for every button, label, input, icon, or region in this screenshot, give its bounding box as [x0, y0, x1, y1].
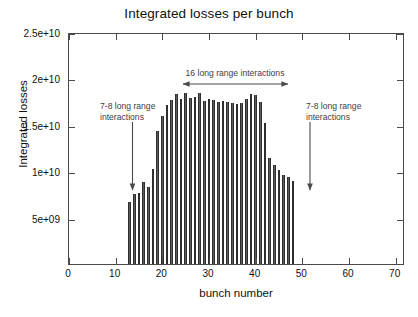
- x-axis-tick-label: 20: [156, 268, 167, 279]
- bar: [138, 193, 141, 264]
- x-axis-tick: [116, 34, 117, 40]
- bar: [180, 99, 183, 264]
- bar: [264, 123, 267, 264]
- bar: [268, 158, 271, 264]
- x-axis-tick: [209, 258, 210, 264]
- x-axis-tick: [302, 258, 303, 264]
- x-axis-tick-labels: 010203040506070: [68, 267, 404, 287]
- y-axis-tick: [397, 173, 403, 174]
- x-axis-tick-label: 10: [109, 268, 120, 279]
- y-axis-tick-label: 5e+09: [32, 213, 60, 224]
- y-axis-tick: [397, 80, 403, 81]
- bar: [287, 177, 290, 264]
- y-axis-tick: [397, 127, 403, 128]
- x-axis-title: bunch number: [68, 287, 404, 299]
- bar: [189, 98, 192, 264]
- x-axis-tick-label: 0: [65, 268, 71, 279]
- bar: [198, 93, 201, 264]
- y-axis-tick-label: 2e+10: [32, 74, 60, 85]
- x-axis-tick: [396, 34, 397, 40]
- bar: [212, 100, 215, 264]
- bar: [236, 104, 239, 264]
- x-axis-tick: [256, 34, 257, 40]
- bar: [170, 100, 173, 264]
- x-axis-tick: [396, 258, 397, 264]
- y-axis-tick-labels: 5e+091e+101.5e+102e+102.5e+10: [0, 33, 68, 265]
- bar: [231, 103, 234, 264]
- bar: [184, 93, 187, 264]
- y-axis-tick: [397, 34, 403, 35]
- x-axis-tick-label: 30: [202, 268, 213, 279]
- y-axis-tick-label: 1.5e+10: [24, 120, 60, 131]
- chart-title: Integrated losses per bunch: [0, 6, 418, 21]
- bar: [292, 181, 295, 264]
- bar: [240, 103, 243, 264]
- chart-figure: Integrated losses per bunch 5e+091e+101.…: [0, 0, 418, 317]
- y-axis-tick: [397, 220, 403, 221]
- x-axis-tick-label: 60: [342, 268, 353, 279]
- bar: [273, 165, 276, 264]
- x-axis-tick: [116, 258, 117, 264]
- bar: [203, 101, 206, 264]
- y-axis-tick-label: 2.5e+10: [24, 28, 60, 39]
- x-axis-tick: [209, 34, 210, 40]
- bar: [166, 105, 169, 264]
- bar: [259, 102, 262, 264]
- x-axis-tick: [69, 34, 70, 40]
- y-axis-tick: [69, 80, 75, 81]
- mid-span-annotation-label: 16 long range interactions: [170, 68, 300, 79]
- x-axis-tick-label: 70: [389, 268, 400, 279]
- y-axis-tick: [69, 127, 75, 128]
- y-axis-tick: [69, 173, 75, 174]
- x-axis-tick-label: 50: [296, 268, 307, 279]
- x-axis-tick: [162, 258, 163, 264]
- y-axis-tick: [69, 220, 75, 221]
- x-axis-tick: [302, 34, 303, 40]
- bar: [226, 102, 229, 264]
- y-axis-tick-label: 1e+10: [32, 167, 60, 178]
- bar: [208, 99, 211, 264]
- bar: [194, 97, 197, 264]
- bar: [147, 187, 150, 264]
- bar: [278, 170, 281, 264]
- bar: [282, 175, 285, 264]
- bar: [142, 182, 145, 264]
- left-annotation-label: 7-8 long range interactions: [100, 101, 180, 122]
- x-axis-tick-label: 40: [249, 268, 260, 279]
- bar: [133, 194, 136, 264]
- x-axis-tick: [256, 258, 257, 264]
- bar: [222, 101, 225, 264]
- y-axis-title: Integrated losses: [17, 44, 29, 204]
- x-axis-tick: [69, 258, 70, 264]
- bar: [254, 95, 257, 264]
- x-axis-tick: [349, 34, 350, 40]
- x-axis-tick: [162, 34, 163, 40]
- right-annotation-label: 7-8 long range interactions: [306, 101, 392, 122]
- bar: [152, 169, 155, 264]
- bar: [245, 99, 248, 264]
- bar: [250, 94, 253, 264]
- bar: [161, 116, 164, 264]
- x-axis-tick: [349, 258, 350, 264]
- bar: [156, 131, 159, 264]
- bar: [217, 102, 220, 264]
- bar: [128, 202, 131, 264]
